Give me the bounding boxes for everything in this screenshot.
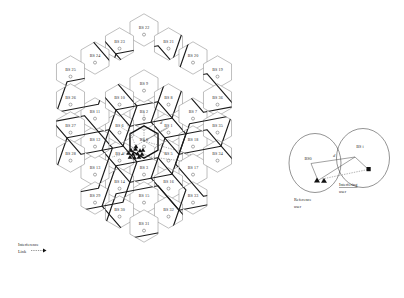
cell-label-bs-9: BS 9 xyxy=(140,81,148,86)
cell-label-bs-32: BS 32 xyxy=(163,207,174,212)
inset-interfering-user-line2: user xyxy=(339,189,347,194)
cell-label-bs-19: BS 19 xyxy=(212,67,223,72)
cell-label-bs-13: BS 13 xyxy=(90,165,101,170)
inset-reference-user-line1: Reference xyxy=(294,197,312,202)
cell-label-bs-10: BS 10 xyxy=(114,95,125,100)
interference-link-arrow-icon xyxy=(31,249,47,253)
cell-label-bs-24: BS 24 xyxy=(90,53,101,58)
cell-label-bs-21: BS 21 xyxy=(163,39,174,44)
inset-interfering-user-line1: Interfering xyxy=(339,182,358,187)
cell-label-bs-15: BS 15 xyxy=(139,193,150,198)
inset-two-cell-geometry: BS0 BS i d Interfering user Reference xyxy=(289,129,390,209)
inset-distance-label: d xyxy=(333,153,336,158)
cell-label-bs-28: BS 28 xyxy=(65,151,76,156)
cell-label-bs-23: BS 23 xyxy=(114,39,125,44)
cell-label-bs-14: BS 14 xyxy=(114,179,125,184)
cell-label-bs-35: BS 35 xyxy=(212,123,223,128)
cell-label-bs-34: BS 34 xyxy=(212,151,223,156)
figure-canvas: BS 0BS 2BS 1BS 5BS 3BS 4BS 6BS 9BS 8BS 7… xyxy=(0,0,404,298)
cell-label-bs-36: BS 36 xyxy=(212,95,223,100)
interference-link-caption-line1: Interference xyxy=(18,242,39,247)
cell-label-bs-8: BS 8 xyxy=(164,95,172,100)
cell-label-bs-27: BS 27 xyxy=(65,123,76,128)
cell-label-bs-18: BS 18 xyxy=(188,137,199,142)
bsi-coverage-circle xyxy=(337,129,390,188)
cell-label-bs-11: BS 11 xyxy=(90,109,100,114)
inset-bs0-label: BS0 xyxy=(304,156,311,161)
cell-label-bs-33: BS 33 xyxy=(188,193,199,198)
cell-label-bs-22: BS 22 xyxy=(139,25,150,30)
cell-label-bs-26: BS 26 xyxy=(65,95,76,100)
cellular-layout-diagram: BS 0BS 2BS 1BS 5BS 3BS 4BS 6BS 9BS 8BS 7… xyxy=(0,0,404,298)
cell-label-bs-20: BS 20 xyxy=(188,53,199,58)
cell-label-bs-2: BS 2 xyxy=(140,109,148,114)
cell-label-bs-17: BS 17 xyxy=(188,165,199,170)
cell-label-bs-3: BS 3 xyxy=(140,165,148,170)
cell-label-bs-25: BS 25 xyxy=(65,67,76,72)
inset-interfering-user-marker xyxy=(367,167,371,171)
cell-label-bs-6: BS 6 xyxy=(115,123,123,128)
inset-bsi-label: BS i xyxy=(356,144,364,149)
cell-label-bs-16: BS 16 xyxy=(163,179,174,184)
cell-label-bs-29: BS 29 xyxy=(90,193,101,198)
cell-label-bs-12: BS 12 xyxy=(90,137,101,142)
cell-label-bs-31: BS 31 xyxy=(139,221,150,226)
inset-reference-user-line2: user xyxy=(294,204,302,209)
cell-label-bs-30: BS 30 xyxy=(114,207,125,212)
cell-label-bs-7: BS 7 xyxy=(189,109,197,114)
interference-link-caption-line2: Link xyxy=(18,249,27,254)
